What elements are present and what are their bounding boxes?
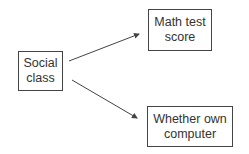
node-math-test-score: Math test score: [148, 9, 212, 51]
node-label-line: class: [23, 71, 57, 86]
node-label-line: Social: [23, 56, 57, 71]
arrow-social-to-computer: [72, 80, 137, 118]
arrow-social-to-math: [69, 34, 139, 61]
node-label-line: Math test: [154, 15, 205, 30]
node-social-class: Social class: [18, 51, 63, 91]
node-label-line: score: [154, 30, 205, 45]
node-label-line: computer: [153, 127, 227, 142]
node-whether-own-computer: Whether own computer: [147, 106, 233, 147]
node-label-line: Whether own: [153, 112, 227, 127]
